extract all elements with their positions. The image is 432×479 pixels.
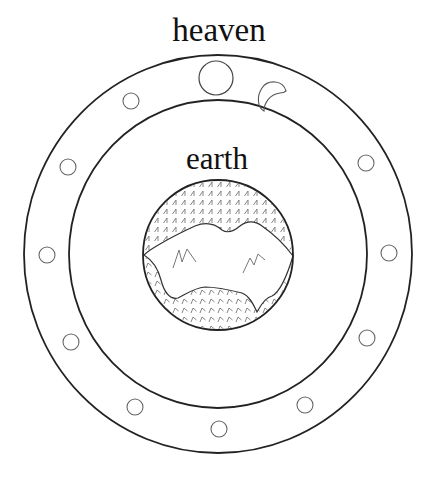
heaven-label: heaven [172,14,265,47]
star-icon [381,245,397,261]
star-icon [127,399,143,415]
star-icon [211,421,227,437]
star-icon [63,334,79,350]
star-icon [297,397,313,413]
star-icon [39,247,55,263]
sun-icon [199,61,233,95]
star-icon [359,330,375,346]
earth-label: earth [186,143,248,174]
star-icon [60,159,76,175]
star-icon [123,93,139,109]
star-icon [358,155,374,171]
cosmology-diagram: heaven earth [0,0,432,479]
diagram-canvas [0,0,432,479]
